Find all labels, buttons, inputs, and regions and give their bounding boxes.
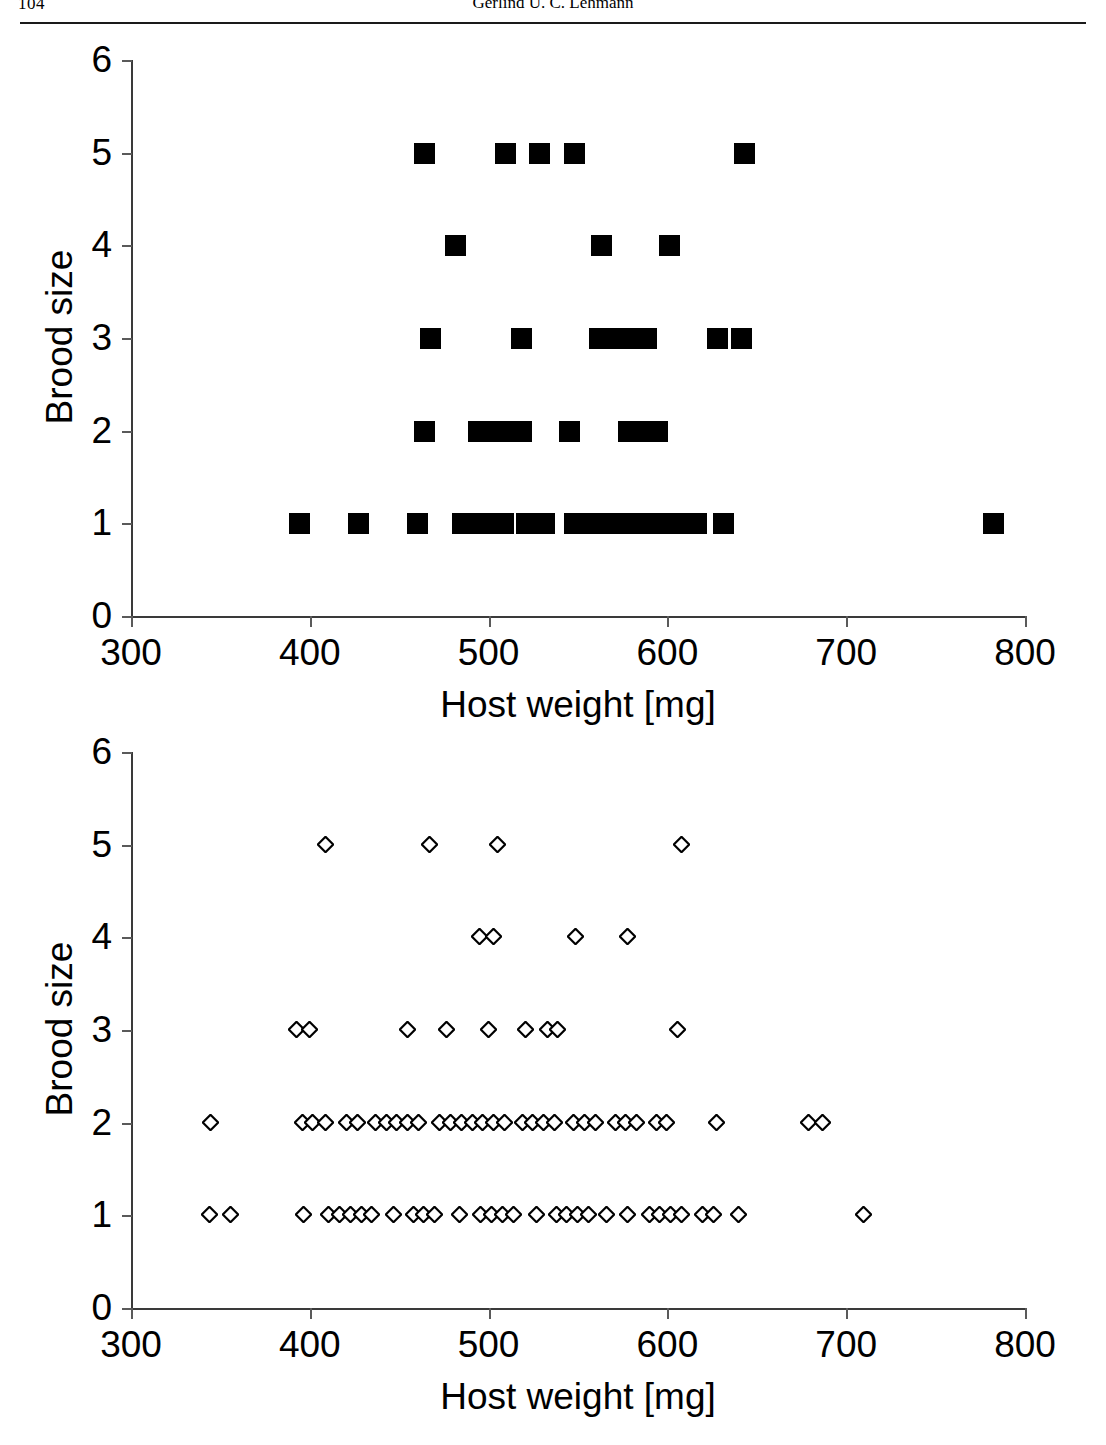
x-tick-top — [667, 616, 669, 627]
data-point-bottom — [505, 1206, 522, 1223]
data-point-bottom — [669, 1021, 686, 1038]
data-point-bottom — [598, 1206, 615, 1223]
data-point-top — [983, 513, 1004, 534]
x-tick-bottom — [667, 1308, 669, 1319]
y-tick-bottom — [122, 1123, 132, 1125]
y-tick-bottom — [122, 752, 132, 754]
data-point-bottom — [349, 1114, 366, 1131]
data-point-bottom — [480, 1021, 497, 1038]
y-tick-label-bottom: 6 — [52, 733, 112, 770]
x-tick-top — [846, 616, 848, 627]
x-tick-label-top: 400 — [250, 634, 370, 671]
data-point-bottom — [619, 928, 636, 945]
data-point-top — [511, 421, 532, 442]
data-point-bottom — [730, 1206, 747, 1223]
data-point-top — [734, 143, 755, 164]
y-tick-top — [122, 60, 132, 62]
data-point-top — [511, 328, 532, 349]
data-point-top — [289, 513, 310, 534]
data-point-top — [564, 143, 585, 164]
x-tick-bottom — [1025, 1308, 1027, 1319]
data-point-top — [407, 513, 428, 534]
x-tick-label-bottom: 300 — [71, 1326, 191, 1363]
data-point-top — [659, 235, 680, 256]
data-point-top — [529, 143, 550, 164]
y-tick-bottom — [122, 1215, 132, 1217]
scatter-chart-top: 0123456 300400500600700800 Brood size Ho… — [0, 34, 1106, 724]
data-point-bottom — [317, 836, 334, 853]
data-point-bottom — [301, 1021, 318, 1038]
data-point-bottom — [451, 1206, 468, 1223]
y-tick-bottom — [122, 1030, 132, 1032]
data-point-top — [414, 143, 435, 164]
x-tick-bottom — [846, 1308, 848, 1319]
y-tick-top — [122, 431, 132, 433]
x-tick-label-top: 300 — [71, 634, 191, 671]
data-point-bottom — [708, 1114, 725, 1131]
plot-area-bottom — [0, 726, 1106, 1402]
y-tick-label-bottom: 0 — [52, 1289, 112, 1326]
y-axis-title-bottom: Brood size — [39, 859, 81, 1199]
data-point-bottom — [567, 928, 584, 945]
x-tick-top — [1025, 616, 1027, 627]
x-axis-bottom — [131, 1308, 1025, 1310]
x-tick-top — [310, 616, 312, 627]
x-tick-top — [131, 616, 133, 627]
scatter-chart-bottom: 0123456 300400500600700800 Brood size Ho… — [0, 726, 1106, 1426]
data-point-bottom — [385, 1206, 402, 1223]
y-tick-label-top: 1 — [52, 504, 112, 541]
data-point-bottom — [517, 1021, 534, 1038]
data-point-bottom — [528, 1206, 545, 1223]
data-point-bottom — [485, 928, 502, 945]
data-point-top — [534, 513, 555, 534]
data-point-top — [591, 235, 612, 256]
x-tick-top — [489, 616, 491, 627]
data-point-top — [493, 513, 514, 534]
data-point-top — [647, 421, 668, 442]
x-tick-bottom — [489, 1308, 491, 1319]
data-point-bottom — [549, 1021, 566, 1038]
data-point-bottom — [438, 1021, 455, 1038]
data-point-bottom — [673, 1206, 690, 1223]
data-point-top — [707, 328, 728, 349]
data-point-top — [686, 513, 707, 534]
x-tick-label-bottom: 800 — [965, 1326, 1085, 1363]
y-tick-bottom — [122, 845, 132, 847]
x-tick-label-bottom: 400 — [250, 1326, 370, 1363]
data-point-bottom — [201, 1206, 218, 1223]
data-point-bottom — [421, 836, 438, 853]
data-point-bottom — [363, 1206, 380, 1223]
data-point-top — [636, 328, 657, 349]
data-point-top — [420, 328, 441, 349]
data-point-bottom — [202, 1114, 219, 1131]
data-point-bottom — [619, 1206, 636, 1223]
y-tick-top — [122, 338, 132, 340]
y-tick-label-bottom: 5 — [52, 826, 112, 863]
x-tick-label-top: 700 — [786, 634, 906, 671]
x-tick-label-top: 800 — [965, 634, 1085, 671]
data-point-bottom — [410, 1114, 427, 1131]
data-point-bottom — [658, 1114, 675, 1131]
x-tick-label-top: 600 — [607, 634, 727, 671]
x-tick-label-bottom: 500 — [429, 1326, 549, 1363]
y-tick-top — [122, 245, 132, 247]
page-header: 104 Gerlind U. C. Lehmann — [0, 0, 1106, 30]
data-point-top — [731, 328, 752, 349]
data-point-bottom — [426, 1206, 443, 1223]
data-point-bottom — [814, 1114, 831, 1131]
data-point-bottom — [317, 1114, 334, 1131]
data-point-bottom — [855, 1206, 872, 1223]
data-point-bottom — [295, 1206, 312, 1223]
y-tick-top — [122, 153, 132, 155]
x-tick-bottom — [310, 1308, 312, 1319]
y-tick-top — [122, 523, 132, 525]
data-point-bottom — [489, 836, 506, 853]
data-point-bottom — [673, 836, 690, 853]
x-tick-label-bottom: 600 — [607, 1326, 727, 1363]
data-point-top — [348, 513, 369, 534]
y-tick-bottom — [122, 937, 132, 939]
running-head: Gerlind U. C. Lehmann — [0, 0, 1106, 13]
data-point-bottom — [496, 1114, 513, 1131]
data-point-bottom — [705, 1206, 722, 1223]
y-tick-label-top: 5 — [52, 134, 112, 171]
